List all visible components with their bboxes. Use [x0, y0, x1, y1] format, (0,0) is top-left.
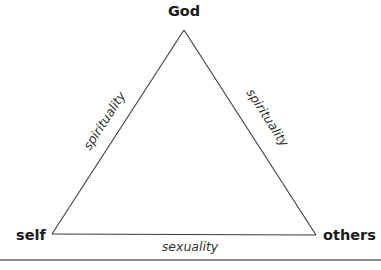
edge-right-line	[184, 30, 316, 235]
edge-left-line	[52, 30, 184, 234]
vertex-label-god: God	[168, 3, 200, 19]
edge-label-left: spirituality	[80, 88, 129, 152]
caption-divider	[0, 259, 381, 261]
vertex-label-self: self	[16, 227, 46, 243]
edge-label-right: spirituality	[243, 86, 292, 150]
edge-label-bottom: sexuality	[162, 239, 219, 254]
vertex-label-others: others	[323, 227, 376, 243]
figure-caption	[0, 264, 381, 270]
edge-bottom-line	[52, 234, 316, 235]
relational-triangle-diagram: God self others spirituality spiritualit…	[0, 0, 381, 270]
